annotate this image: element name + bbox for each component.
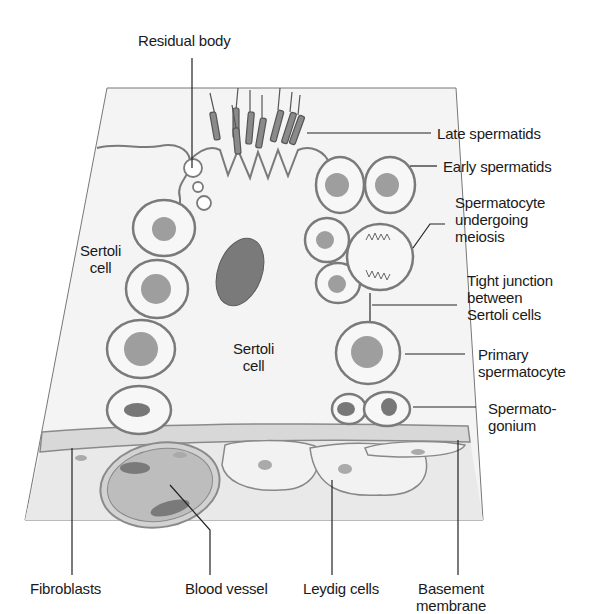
label-leydig-cells: Leydig cells: [303, 580, 379, 597]
label-tight-junction: Tight junction between Sertoli cells: [467, 272, 553, 323]
label-basement-membrane: Basement membrane: [416, 580, 486, 614]
label-blood-vessel: Blood vessel: [185, 580, 268, 597]
label-spermatocyte-meiosis: Spermatocyte undergoing meiosis: [455, 194, 545, 245]
label-spermatogonium: Spermato- gonium: [488, 400, 556, 434]
label-primary-spermatocyte: Primary spermatocyte: [478, 346, 566, 380]
label-early-spermatids: Early spermatids: [443, 158, 552, 175]
label-residual-body: Residual body: [138, 32, 230, 49]
label-late-spermatids: Late spermatids: [437, 125, 541, 142]
label-sertoli-cell-center: Sertoli cell: [233, 340, 274, 374]
label-sertoli-cell-left: Sertoli cell: [80, 242, 121, 276]
label-fibroblasts: Fibroblasts: [30, 580, 101, 597]
